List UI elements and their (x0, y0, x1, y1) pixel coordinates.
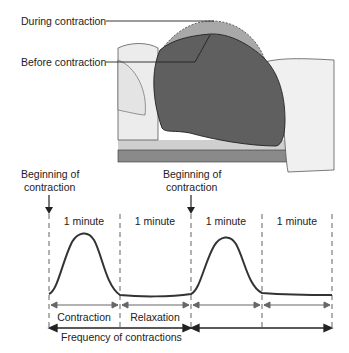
beginning-label-1-line1: Beginning of (21, 168, 79, 180)
span-arrowhead-4b (324, 302, 330, 308)
uterine-contraction-diagram: During contraction Before contraction Be… (0, 0, 349, 353)
contraction-graph: Beginning of contraction Beginning of co… (21, 168, 332, 343)
minute-label-1: 1 minute (64, 215, 104, 227)
span-arrowhead-1a (51, 302, 57, 308)
frequency-arrowhead-2b (324, 325, 332, 332)
beginning-label-2-line2: contraction (166, 181, 218, 193)
phase-label-relaxation: Relaxation (130, 311, 180, 323)
beginning-label-2-line1: Beginning of (163, 168, 221, 180)
bed-mattress (118, 150, 288, 162)
frequency-label: Frequency of contractions (61, 331, 182, 343)
phase-label-contraction: Contraction (57, 311, 111, 323)
minute-label-4: 1 minute (277, 215, 317, 227)
uterus-before-contraction (154, 34, 285, 146)
frequency-arrowhead-2a (191, 325, 199, 332)
arrowhead-beginning-1 (45, 207, 53, 214)
minute-label-3: 1 minute (206, 215, 246, 227)
span-arrowhead-1b (112, 302, 118, 308)
label-during-contraction: During contraction (21, 15, 106, 27)
frequency-arrowhead-1a (49, 325, 57, 332)
span-arrowhead-3a (193, 302, 199, 308)
span-arrowhead-2b (183, 302, 189, 308)
arrowhead-beginning-2 (187, 207, 195, 214)
span-arrowhead-2a (122, 302, 128, 308)
span-arrowhead-3b (254, 302, 260, 308)
minute-label-2: 1 minute (135, 215, 175, 227)
span-arrowhead-4a (264, 302, 270, 308)
label-before-contraction: Before contraction (21, 56, 106, 68)
beginning-label-1-line2: contraction (24, 181, 76, 193)
patient-illustration (106, 21, 334, 172)
